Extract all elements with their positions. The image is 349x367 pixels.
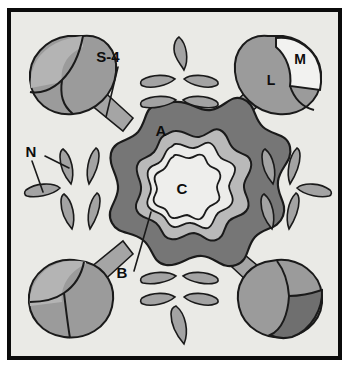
lobe-bottom-right — [238, 260, 322, 338]
diagram-canvas: L M A C — [0, 0, 349, 367]
label-a: A — [156, 122, 167, 139]
label-n: N — [26, 143, 37, 160]
label-c: C — [177, 180, 188, 197]
figure-root: L M A C — [0, 0, 349, 367]
label-s4: S-4 — [96, 48, 120, 65]
label-b: B — [117, 264, 128, 281]
label-m: M — [294, 51, 306, 67]
label-l: L — [267, 72, 276, 88]
lobe-bottom-left — [29, 260, 113, 338]
